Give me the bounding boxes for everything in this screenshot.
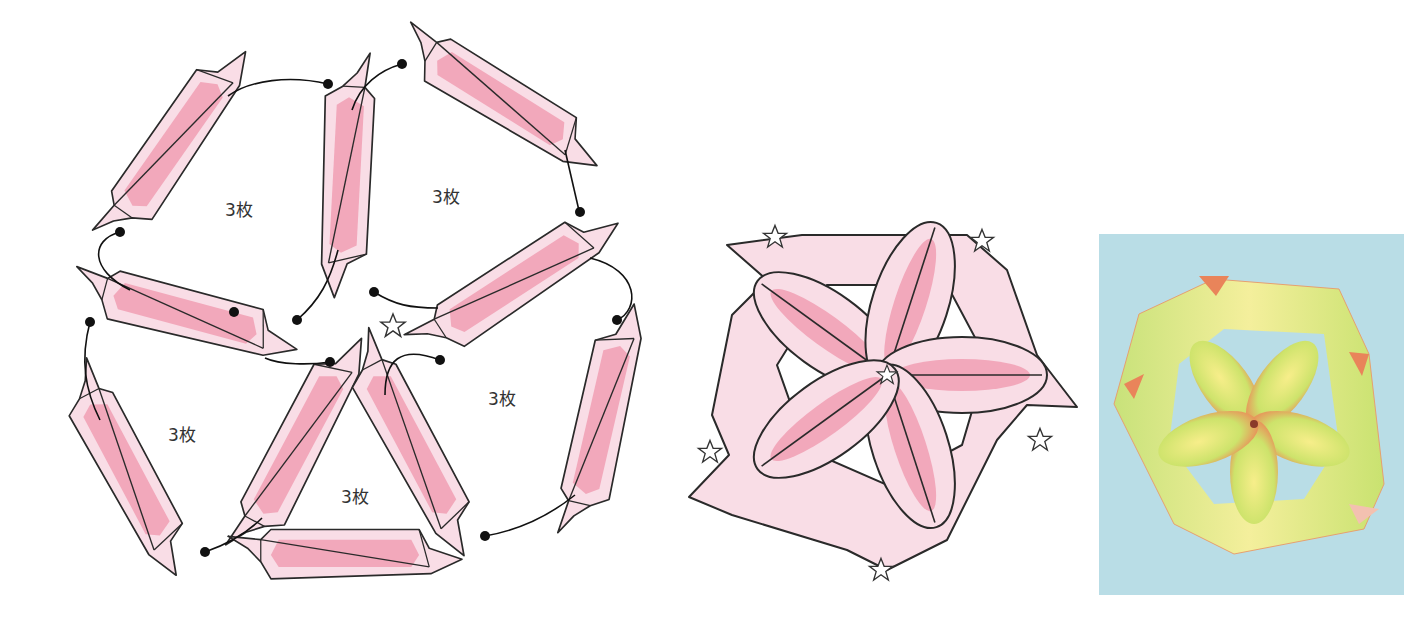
unit-far-right — [551, 297, 653, 542]
assembly-diagram: 3枚 3枚 3枚 3枚 3枚 — [49, 16, 653, 584]
unit-bottom-left — [49, 355, 202, 585]
unit-triangle-bottom — [228, 530, 462, 579]
unit-top-left — [87, 35, 262, 255]
group-label-top-right: 3枚 — [432, 187, 460, 207]
group-label-top-left: 3枚 — [225, 200, 253, 220]
unit-top-right — [388, 16, 613, 182]
finished-model-photo — [1099, 234, 1404, 595]
flower-photo-illustration — [1099, 234, 1404, 595]
finished-diagram — [689, 211, 1077, 570]
center-star-icon — [381, 314, 405, 337]
unit-top-center — [315, 51, 377, 299]
group-label-center-triangle: 3枚 — [341, 487, 369, 507]
unit-left-middle — [66, 260, 305, 368]
star-icon — [1028, 428, 1051, 450]
group-label-bottom-right: 3枚 — [488, 389, 516, 409]
star-icon — [698, 440, 721, 462]
group-label-bottom-left: 3枚 — [168, 425, 196, 445]
